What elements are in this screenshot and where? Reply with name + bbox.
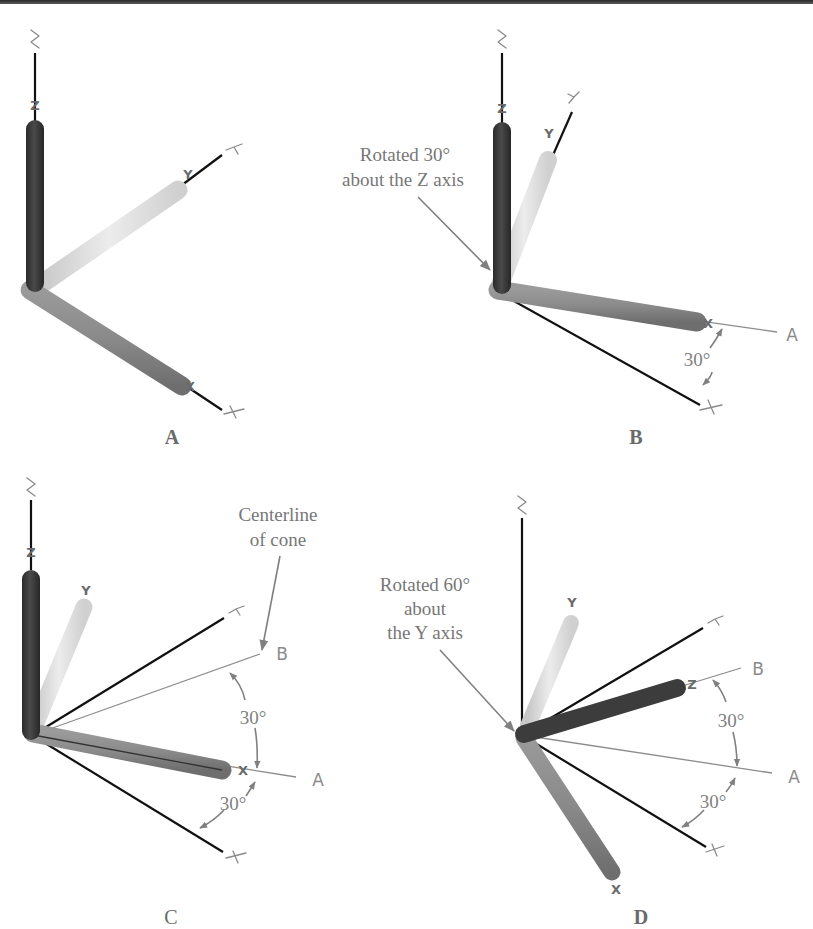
panel-label-c: C bbox=[164, 906, 177, 928]
x-axis-handwritten-icon bbox=[226, 851, 246, 863]
z-axis-handwritten-icon bbox=[498, 30, 506, 48]
reference-line-b-label: B bbox=[276, 644, 288, 664]
callout-line-2: about bbox=[404, 598, 447, 619]
callout-line-1: Rotated 30° bbox=[360, 144, 450, 165]
callout-arrow bbox=[262, 556, 280, 650]
y-rod-label: Y bbox=[182, 167, 193, 182]
z-rod bbox=[22, 570, 40, 740]
y-axis-handwritten-icon bbox=[229, 606, 244, 615]
callout-line-3: the Y axis bbox=[387, 622, 463, 643]
y-rod-label: Y bbox=[566, 595, 577, 610]
angle-arc-upper-top bbox=[230, 673, 245, 700]
x-rod-label: X bbox=[185, 379, 195, 394]
callout-line-2: about the Z axis bbox=[342, 169, 464, 190]
angle-label-upper: 30° bbox=[718, 710, 745, 731]
angle-arc-upper bbox=[710, 329, 722, 348]
reference-line-a-label: A bbox=[788, 767, 800, 787]
z-rod-label: Z bbox=[30, 98, 39, 113]
angle-arc-upper-bottom bbox=[255, 728, 257, 768]
x-rod bbox=[30, 290, 182, 386]
angle-arc-lower bbox=[703, 372, 712, 385]
z-axis-handwritten-icon bbox=[31, 30, 39, 48]
z-rod-label: Z bbox=[497, 101, 506, 116]
x-rod bbox=[524, 738, 612, 872]
panel-c: B A 30° 30° Z Y X Centerline of cone C bbox=[22, 478, 324, 928]
y-axis-handwritten-icon bbox=[708, 616, 723, 625]
callout-arrow bbox=[440, 650, 514, 731]
x-axis-handwritten-icon bbox=[706, 844, 724, 856]
angle-label: 30° bbox=[684, 349, 711, 370]
reference-line-b-label: B bbox=[752, 659, 764, 679]
y-rod-label: Y bbox=[80, 583, 91, 598]
y-axis-handwritten-icon bbox=[226, 144, 242, 154]
angle-arc-upper-bottom bbox=[733, 732, 737, 766]
callout-line-2: of cone bbox=[250, 529, 306, 550]
panel-label-d: D bbox=[634, 906, 648, 928]
z-rod-label: Z bbox=[687, 677, 696, 692]
z-rod bbox=[26, 120, 44, 292]
reference-line-a-label: A bbox=[786, 325, 798, 345]
callout-line-1: Rotated 60° bbox=[380, 574, 470, 595]
z-axis-handwritten-icon bbox=[27, 478, 35, 496]
y-rod bbox=[34, 607, 84, 728]
x-rod bbox=[498, 290, 697, 322]
x-axis-handwritten-icon bbox=[224, 406, 244, 418]
axis-rotation-figure: Z Y X A A 30° Z Y X Rotated 30° about th… bbox=[0, 0, 813, 929]
angle-arc-upper-top bbox=[713, 680, 726, 702]
angle-label-lower: 30° bbox=[220, 793, 247, 814]
callout-arrow bbox=[418, 197, 490, 270]
reference-line-a-label: A bbox=[312, 770, 324, 790]
x-rod-label: X bbox=[238, 763, 248, 778]
angle-arc-lower-top bbox=[726, 778, 735, 792]
panel-label-b: B bbox=[629, 426, 642, 448]
angle-label-lower: 30° bbox=[700, 791, 727, 812]
y-axis-handwritten-icon bbox=[568, 92, 579, 103]
panel-b: A 30° Z Y X Rotated 30° about the Z axis… bbox=[342, 30, 798, 448]
x-rod-label: X bbox=[611, 882, 621, 897]
y-rod bbox=[40, 190, 178, 285]
panel-label-a: A bbox=[165, 426, 180, 448]
y-axis-line bbox=[553, 112, 572, 155]
x-rod-label: X bbox=[703, 316, 713, 331]
angle-arc-lower-bottom bbox=[682, 810, 704, 827]
z-axis-handwritten-icon bbox=[518, 496, 526, 514]
z-rod-label: Z bbox=[26, 545, 35, 560]
callout-line-1: Centerline bbox=[238, 504, 317, 525]
z-rod bbox=[493, 122, 511, 294]
panel-a: Z Y X A bbox=[26, 30, 244, 448]
y-rod-label: Y bbox=[543, 126, 554, 141]
angle-label-upper: 30° bbox=[240, 707, 267, 728]
panel-d: B A 30° 30° Z Y X Rotated 60° about the … bbox=[380, 496, 800, 928]
x-axis-handwritten-icon bbox=[700, 400, 722, 414]
angle-arc-lower-top bbox=[246, 782, 255, 796]
